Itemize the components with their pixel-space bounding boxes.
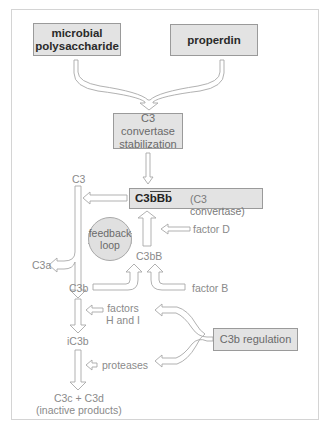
c3bBb-label: C3bBb: [135, 192, 172, 204]
properdin-label: properdin: [187, 34, 241, 47]
products-line-2: (inactive products): [36, 404, 122, 416]
c3b-regulation-label: C3b regulation: [220, 333, 292, 346]
label-c3a: C3a: [32, 259, 51, 271]
up-arrow-c3bBb: [138, 211, 156, 246]
c3-convertase-box: C3bBb (C3 convertase): [129, 188, 263, 209]
down-arrow-stab: [143, 153, 153, 184]
feedback-line-2: loop: [100, 239, 120, 251]
label-ic3b: iC3b: [67, 335, 89, 347]
microbial-line-1: microbial: [51, 27, 102, 40]
c3b-down-arrow: [70, 299, 86, 333]
label-factor-b: factor B: [192, 282, 228, 294]
factors-hi-line-1: factors: [106, 302, 140, 314]
properdin-box: properdin: [170, 24, 258, 56]
feedback-loop-circle: feedback loop: [88, 217, 132, 261]
stabilization-line-1: C3 convertase: [114, 112, 182, 138]
label-c3bB: C3bB: [136, 250, 162, 262]
factors-hi-line-2: H and I: [106, 314, 140, 326]
label-c3: C3: [72, 173, 85, 185]
stabilization-box: C3 convertase stabilization: [113, 113, 183, 149]
merge-arrow: [74, 60, 224, 110]
ic3b-down-arrow: [70, 350, 86, 390]
microbial-polysaccharide-box: microbial polysaccharide: [33, 23, 121, 56]
left-arrow-conv: [83, 192, 127, 204]
label-products: C3c + C3d (inactive products): [36, 392, 122, 416]
products-line-1: C3c + C3d: [36, 392, 122, 404]
factor-d-arrow: [161, 224, 190, 234]
c3-convertase-desc: (C3 convertase): [190, 193, 262, 217]
proteases-arrow: [86, 360, 97, 370]
microbial-line-2: polysaccharide: [35, 40, 119, 53]
c3b-regulation-box: C3b regulation: [213, 328, 298, 351]
c3b-to-c3bB-arrow: [93, 264, 142, 290]
label-factors-hi: factors H and I: [106, 302, 140, 326]
arrows-layer: [0, 0, 329, 432]
feedback-line-1: feedback: [89, 227, 132, 239]
label-c3b: C3b: [69, 282, 88, 294]
label-factor-d: factor D: [193, 223, 230, 235]
stabilization-line-2: stabilization: [119, 138, 176, 151]
label-proteases: proteases: [102, 359, 148, 371]
factors-hi-arrow: [86, 305, 103, 315]
factor-b-arrow: [147, 264, 185, 290]
regulation-fork-arrow: [155, 304, 213, 367]
